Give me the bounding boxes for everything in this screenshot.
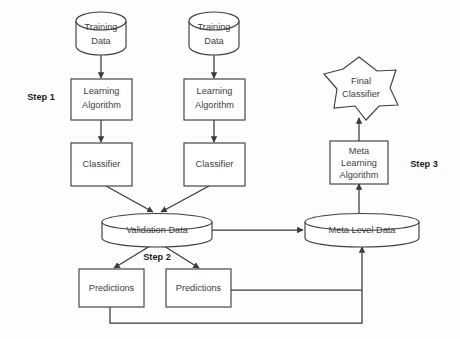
final-classifier-label-line2: Classifier <box>342 89 380 99</box>
training-data-left-label-line1: Training <box>85 22 118 32</box>
learning-algorithm-left-label-line1: Learning <box>84 86 120 96</box>
node-learning-algorithm-right: Learning Algorithm <box>184 79 245 120</box>
node-predictions-left: Predictions <box>79 269 144 307</box>
ensemble-workflow-diagram: Training Data Training Data Learning Alg… <box>0 0 460 339</box>
meta-level-data-label: Meta Level Data <box>329 225 397 235</box>
node-meta-level-data: Meta Level Data <box>305 214 419 248</box>
node-validation-data: Validation Data <box>102 214 212 248</box>
meta-learning-algorithm-label-line1: Meta <box>349 146 370 156</box>
step-3-label: Step 3 <box>410 159 438 169</box>
validation-data-label: Validation Data <box>126 225 189 235</box>
learning-algorithm-right-label-line1: Learning <box>197 86 233 96</box>
training-data-left-label-line2: Data <box>91 36 111 46</box>
learning-algorithm-left-label-line2: Algorithm <box>82 100 121 110</box>
node-training-data-left: Training Data <box>76 12 126 55</box>
node-classifier-left: Classifier <box>71 143 132 186</box>
node-final-classifier: Final Classifier <box>324 57 398 120</box>
node-learning-algorithm-left: Learning Algorithm <box>71 79 132 120</box>
meta-learning-algorithm-label-line3: Algorithm <box>340 170 379 180</box>
diagram-canvas: Training Data Training Data Learning Alg… <box>0 0 460 339</box>
training-data-right-label-line1: Training <box>198 22 231 32</box>
connector-classifier-left-to-validation <box>106 186 153 212</box>
node-classifier-right: Classifier <box>184 143 245 186</box>
node-predictions-right: Predictions <box>166 269 231 307</box>
step-2-label: Step 2 <box>143 252 171 262</box>
connector-classifier-right-to-validation <box>161 186 209 212</box>
node-meta-learning-algorithm: Meta Learning Algorithm <box>330 141 388 184</box>
meta-learning-algorithm-label-line2: Learning <box>341 158 377 168</box>
predictions-left-label: Predictions <box>89 283 135 293</box>
learning-algorithm-right-label-line2: Algorithm <box>195 100 234 110</box>
step-1-label: Step 1 <box>27 92 55 102</box>
training-data-right-label-line2: Data <box>204 36 224 46</box>
predictions-right-label: Predictions <box>176 283 222 293</box>
classifier-left-label: Classifier <box>83 159 121 169</box>
final-classifier-label-line1: Final <box>351 76 371 86</box>
classifier-right-label: Classifier <box>196 159 234 169</box>
node-training-data-right: Training Data <box>189 12 239 55</box>
